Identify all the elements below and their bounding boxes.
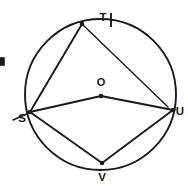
- vertex-dot-t: [80, 22, 85, 27]
- vertex-dot-u: [171, 108, 176, 113]
- vertex-label-u: U: [176, 105, 184, 117]
- cropped-edge-mark: [1, 58, 5, 65]
- vertex-label-s: S: [18, 112, 26, 124]
- geometry-figure: T S U V O: [0, 0, 188, 186]
- segment-radius-o-u: [101, 96, 173, 110]
- vertex-label-t: T: [99, 11, 106, 23]
- segment-chord-t-s: [30, 24, 82, 112]
- segment-chord-s-v: [30, 112, 102, 163]
- vertex-dot-s: [28, 110, 33, 115]
- segment-radius-o-s: [30, 96, 101, 112]
- vertex-label-v: V: [98, 171, 106, 183]
- center-dot-o: [99, 94, 104, 99]
- segment-chord-t-u: [83, 25, 168, 107]
- center-label-o: O: [97, 76, 106, 88]
- vertex-dot-v: [100, 161, 105, 166]
